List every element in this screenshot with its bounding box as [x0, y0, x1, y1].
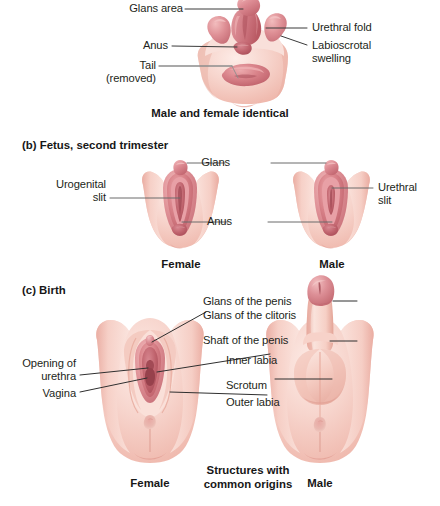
label-outer-labia: Outer labia — [226, 396, 326, 409]
label-urethral-slit-2: slit — [378, 194, 440, 207]
label-tail: Tail — [78, 59, 156, 72]
label-scrotum: Scrotum — [226, 379, 326, 392]
panel-b-female-artwork — [142, 160, 219, 248]
label-urethral-slit: Urethral — [378, 181, 440, 194]
label-glans-of-penis: Glans of the penis — [203, 295, 333, 308]
caption-structures-common-origins: Structures with — [196, 464, 300, 478]
leader-labioscrotal — [281, 36, 307, 45]
label-glans-b: Glans — [170, 156, 230, 169]
caption-b-female: Female — [145, 258, 217, 272]
label-labioscrotal-swelling-2: swelling — [312, 52, 432, 65]
panel-b-male-artwork — [293, 160, 370, 248]
caption-b-male: Male — [296, 258, 368, 272]
label-inner-labia: Inner labia — [226, 354, 326, 367]
label-urethral-fold: Urethral fold — [312, 21, 432, 34]
label-labioscrotal-swelling: Labioscrotal — [312, 39, 432, 52]
label-tail-removed: (removed) — [56, 72, 156, 85]
section-label-b: (b) Fetus, second trimester — [22, 139, 168, 151]
label-anus-a: Anus — [78, 39, 168, 52]
section-label-c: (c) Birth — [22, 284, 66, 296]
label-urogenital-slit-2: slit — [28, 191, 106, 204]
panel-a-artwork — [159, 0, 307, 107]
label-opening-of-urethra: Opening of — [4, 357, 76, 370]
caption-male-female-identical: Male and female identical — [150, 107, 290, 121]
label-glans-area: Glans area — [78, 2, 183, 15]
label-anus-b: Anus — [178, 215, 232, 228]
caption-structures-common-origins-2: common origins — [196, 478, 300, 492]
anatomy-figure: Glans area Anus Tail (removed) Urethral … — [0, 0, 440, 506]
label-urogenital-slit: Urogenital — [28, 178, 106, 191]
label-shaft-of-penis: Shaft of the penis — [203, 334, 333, 347]
label-glans-of-clitoris: Glans of the clitoris — [203, 309, 343, 322]
panel-c-female-artwork — [96, 318, 203, 463]
label-vagina: Vagina — [4, 387, 76, 400]
caption-c-female: Female — [114, 477, 186, 491]
label-opening-of-urethra-2: urethra — [4, 370, 76, 383]
